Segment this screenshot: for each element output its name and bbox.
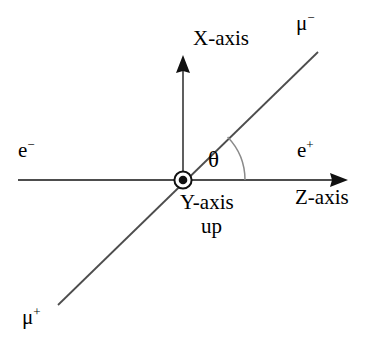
theta-angle-label: θ: [208, 148, 219, 171]
origin-dot-icon: [179, 176, 188, 185]
diagram-canvas: [0, 0, 381, 352]
muon-plus-label: μ+: [22, 307, 41, 328]
x-axis-label: X-axis: [193, 28, 249, 49]
muon-plus-charge-superscript: +: [33, 304, 40, 319]
theta-angle-arc: [228, 137, 245, 180]
electron-symbol: e: [18, 138, 27, 162]
y-axis-label: Y-axis: [180, 192, 234, 213]
muon-minus-label: μ−: [296, 13, 315, 34]
electron-label: e−: [18, 140, 35, 161]
positron-charge-superscript: +: [306, 137, 313, 152]
muon-plus-symbol: μ: [22, 305, 33, 329]
muon-minus-symbol: μ: [296, 11, 307, 35]
x-axis-arrowhead: [176, 55, 190, 73]
electron-charge-superscript: −: [27, 137, 34, 152]
positron-label: e+: [297, 140, 314, 161]
y-axis-direction-label: up: [201, 216, 222, 237]
physics-diagram-figure: X-axis Z-axis Y-axis up e− e+ μ− μ+ θ: [0, 0, 381, 352]
muon-minus-charge-superscript: −: [307, 10, 314, 25]
positron-symbol: e: [297, 138, 306, 162]
z-axis-label: Z-axis: [295, 187, 349, 208]
